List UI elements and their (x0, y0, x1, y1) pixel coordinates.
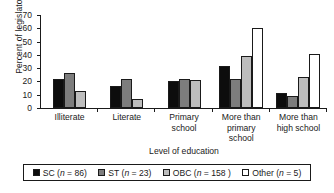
legend-swatch-st (98, 169, 105, 176)
x-tick-label-primary-school: Primaryschool (155, 112, 212, 144)
bar-sc (219, 66, 230, 109)
legend-label-st: ST (n = 23) (108, 168, 151, 178)
bar-sc (110, 86, 121, 108)
x-tick-label-illiterate: Illiterate (41, 112, 98, 144)
y-tick-label-10: 10 (2, 91, 32, 99)
y-tick-mark-0 (37, 108, 41, 109)
legend-swatch-other (242, 169, 249, 176)
bars (276, 54, 320, 108)
legend-swatch-sc (33, 169, 40, 176)
x-axis-tick-labels: Illiterate Literate Primaryschool More t… (41, 112, 327, 144)
bars (168, 79, 201, 108)
bar-group-literate (98, 15, 155, 108)
y-tick-label-60: 60 (2, 24, 32, 32)
bar-obc (132, 99, 143, 108)
legend-label-other: Other (n = 5) (252, 168, 301, 178)
legend-item-other: Other (n = 5) (242, 168, 301, 178)
y-tick-label-70: 70 (2, 11, 32, 19)
bar-other (252, 28, 263, 108)
y-tick-label-40: 40 (2, 51, 32, 59)
plot-area: 70 60 50 40 30 20 10 0 (40, 15, 327, 108)
x-tick-label-more-than-primary-school: More thanprimaryschool (213, 112, 270, 144)
legend-item-obc: OBC (n = 158 ) (163, 168, 231, 178)
legend-item-sc: SC (n = 86) (33, 168, 87, 178)
x-axis-line (40, 108, 327, 109)
bars (53, 73, 86, 108)
bar-other (309, 54, 320, 108)
bar-st (64, 73, 75, 108)
bar-groups (41, 15, 327, 108)
bar-sc (276, 93, 287, 108)
x-tick-label-more-than-high-school: More thanhigh school (270, 112, 327, 144)
bar-st (287, 96, 298, 108)
x-tick-label-literate: Literate (98, 112, 155, 144)
bar-chart-figure: Percent of legislators 70 60 50 40 30 20… (0, 0, 334, 193)
bar-st (121, 79, 132, 108)
bars (219, 28, 263, 108)
chart-legend: SC (n = 86) ST (n = 23) OBC (n = 158 ) O… (23, 164, 311, 181)
bar-st (179, 79, 190, 108)
y-tick-label-0: 0 (2, 104, 32, 112)
y-tick-label-50: 50 (2, 38, 32, 46)
legend-swatch-obc (163, 169, 170, 176)
bar-obc (241, 56, 252, 108)
legend-label-sc: SC (n = 86) (43, 168, 87, 178)
bar-group-illiterate (41, 15, 98, 108)
bar-obc (75, 91, 86, 108)
y-tick-label-20: 20 (2, 77, 32, 85)
y-tick-label-30: 30 (2, 64, 32, 72)
bar-group-more-than-high-school (270, 15, 327, 108)
bars (110, 79, 143, 108)
bar-obc (190, 80, 201, 108)
bar-group-primary-school (155, 15, 212, 108)
bar-group-more-than-primary-school (213, 15, 270, 108)
legend-item-st: ST (n = 23) (98, 168, 151, 178)
legend-label-obc: OBC (n = 158 ) (173, 168, 231, 178)
bar-st (230, 79, 241, 108)
bar-sc (53, 79, 64, 108)
bar-obc (298, 77, 309, 108)
bar-sc (168, 81, 179, 108)
x-axis-title: Level of education (41, 146, 327, 156)
